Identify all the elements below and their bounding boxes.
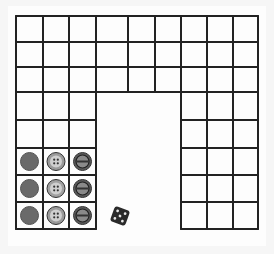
buttons-group: [21, 153, 92, 225]
button-piece: [21, 207, 39, 225]
button-piece: [74, 180, 92, 198]
button-piece: [21, 153, 39, 171]
button-piece: [47, 153, 65, 171]
button-piece: [74, 207, 92, 225]
button-piece: [47, 207, 65, 225]
button-piece: [47, 180, 65, 198]
button-piece: [74, 153, 92, 171]
button-piece: [21, 180, 39, 198]
board-scene: [0, 0, 274, 254]
die-icon: [110, 206, 131, 227]
